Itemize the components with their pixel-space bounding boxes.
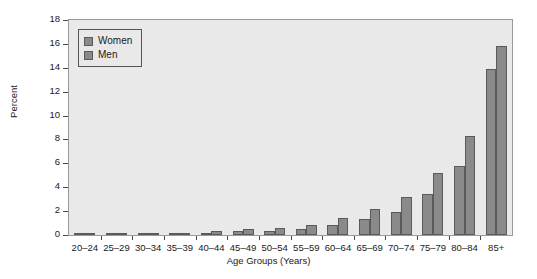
bar-women	[422, 194, 433, 235]
x-axis-tick-mark	[417, 236, 418, 240]
bar-women	[201, 233, 212, 235]
bar-group	[486, 20, 507, 235]
y-axis-tick-label: 14	[49, 61, 60, 73]
bar-men	[85, 233, 96, 235]
y-axis-tick-label: 4	[55, 180, 60, 192]
y-axis-tick-label: 8	[55, 132, 60, 144]
y-axis-tick-label: 18	[49, 13, 60, 25]
bar-women	[264, 231, 275, 235]
bar-group	[264, 20, 285, 235]
bar-women	[296, 229, 307, 235]
x-axis-tick-label: 45–49	[230, 242, 256, 254]
bar-women	[327, 225, 338, 235]
chart-legend: Women Men	[78, 29, 142, 67]
x-axis-tick-label: 55–59	[293, 242, 319, 254]
bar-group	[359, 20, 380, 235]
bar-men	[465, 136, 476, 235]
legend-label-men: Men	[98, 49, 117, 61]
bar-men	[243, 229, 254, 235]
y-axis-tick-label: 16	[49, 37, 60, 49]
legend-item-women: Women	[84, 34, 132, 48]
bar-men	[148, 233, 159, 235]
bar-men	[180, 233, 191, 235]
x-axis-tick-mark	[227, 236, 228, 240]
y-axis-tick-label: 10	[49, 109, 60, 121]
x-axis-tick-label: 40–44	[198, 242, 224, 254]
x-axis-tick-label: 85+	[488, 242, 504, 254]
legend-swatch-men-icon	[84, 51, 93, 60]
x-axis-tick-mark	[259, 236, 260, 240]
bar-men	[116, 233, 127, 235]
y-axis-tick-label: 0	[55, 228, 60, 240]
bar-group	[391, 20, 412, 235]
bar-men	[338, 218, 349, 235]
bar-chart-figure: 024681012141618 Percent Women Men 20–242…	[0, 0, 537, 279]
bar-women	[486, 69, 497, 235]
x-axis-tick-mark	[449, 236, 450, 240]
x-axis-tick-label: 25–29	[103, 242, 129, 254]
bar-women	[138, 233, 149, 235]
bar-women	[454, 166, 465, 235]
y-axis-title: Percent	[8, 67, 19, 137]
x-axis-tick-mark	[480, 236, 481, 240]
bar-men	[211, 231, 222, 235]
bar-men	[401, 197, 412, 235]
legend-item-men: Men	[84, 48, 132, 62]
x-axis-tick-mark	[354, 236, 355, 240]
bar-men	[370, 209, 381, 235]
x-axis-tick-mark	[385, 236, 386, 240]
bar-women	[106, 233, 117, 235]
x-axis-tick-mark	[291, 236, 292, 240]
y-axis-tick-label: 2	[55, 204, 60, 216]
bar-group	[296, 20, 317, 235]
x-axis-tick-label: 60–64	[325, 242, 351, 254]
x-axis-tick-mark	[196, 236, 197, 240]
x-axis-tick-label: 65–69	[356, 242, 382, 254]
bar-group	[201, 20, 222, 235]
x-axis-tick-label: 20–24	[72, 242, 98, 254]
x-axis-tick-mark	[132, 236, 133, 240]
bar-group	[233, 20, 254, 235]
bar-group	[422, 20, 443, 235]
y-axis-tick-label: 12	[49, 85, 60, 97]
bar-men	[306, 225, 317, 235]
bar-women	[233, 231, 244, 235]
bar-women	[391, 212, 402, 235]
x-axis-tick-mark	[322, 236, 323, 240]
bar-women	[169, 233, 180, 235]
legend-swatch-women-icon	[84, 37, 93, 46]
y-axis-tick-label: 6	[55, 156, 60, 168]
x-axis-tick-label: 75–79	[420, 242, 446, 254]
bar-women	[74, 233, 85, 235]
bar-men	[496, 46, 507, 235]
bar-men	[433, 173, 444, 235]
bar-women	[359, 219, 370, 235]
x-axis-tick-label: 35–39	[167, 242, 193, 254]
x-axis-tick-mark	[101, 236, 102, 240]
bar-men	[275, 228, 286, 235]
x-axis-tick-mark	[164, 236, 165, 240]
x-axis-tick-label: 30–34	[135, 242, 161, 254]
bar-group	[454, 20, 475, 235]
bar-group	[169, 20, 190, 235]
x-axis-tick-label: 70–74	[388, 242, 414, 254]
x-axis-tick-label: 50–54	[261, 242, 287, 254]
bar-group	[327, 20, 348, 235]
x-axis-title: Age Groups (Years)	[0, 255, 537, 266]
x-axis-tick-label: 80–84	[451, 242, 477, 254]
legend-label-women: Women	[98, 35, 132, 47]
